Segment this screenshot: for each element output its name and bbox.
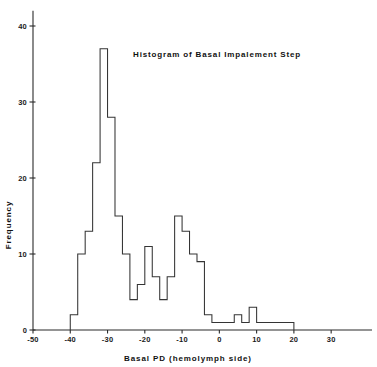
- x-tick-label-6: 10: [252, 335, 261, 344]
- x-tick-label-1: -40: [65, 335, 76, 344]
- x-tick-label-2: -30: [102, 335, 113, 344]
- histogram-figure: -50-40-30-20-100102030010203040 Histogra…: [0, 0, 377, 367]
- x-axis-title: Basal PD (hemolymph side): [124, 354, 252, 363]
- histogram-plot: -50-40-30-20-100102030010203040 Histogra…: [0, 0, 377, 367]
- tick-marks-group: [30, 26, 332, 334]
- y-axis-title: Frequency: [4, 201, 13, 250]
- histogram-outline: [70, 49, 294, 330]
- x-tick-label-8: 30: [327, 335, 336, 344]
- y-tick-label-3: 30: [18, 98, 27, 107]
- x-tick-label-4: -10: [176, 335, 187, 344]
- x-tick-label-3: -20: [139, 335, 150, 344]
- y-tick-label-1: 10: [18, 250, 27, 259]
- x-tick-label-5: 0: [217, 335, 221, 344]
- y-tick-label-4: 40: [18, 22, 27, 31]
- y-tick-label-0: 0: [23, 326, 27, 335]
- x-tick-label-7: 20: [290, 335, 299, 344]
- tick-labels-group: -50-40-30-20-100102030010203040: [18, 22, 335, 344]
- histogram-outline-group: [70, 49, 294, 330]
- y-tick-label-2: 20: [18, 174, 27, 183]
- chart-title: Histogram of Basal Impalement Step: [133, 50, 301, 59]
- x-tick-label-0: -50: [27, 335, 38, 344]
